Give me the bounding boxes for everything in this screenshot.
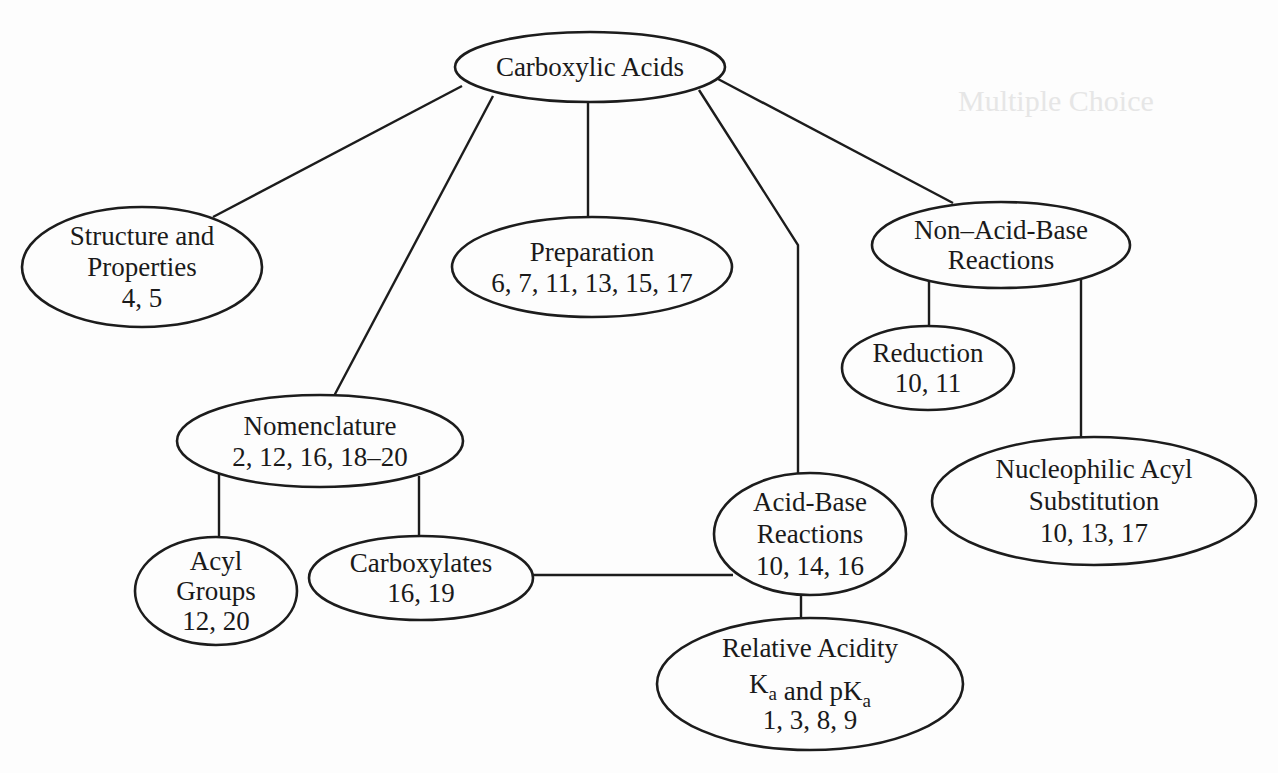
node-label-line: Relative Acidity (722, 633, 899, 663)
nodes: Carboxylic AcidsStructure andProperties4… (22, 32, 1256, 750)
node-label-line: Structure and (70, 221, 215, 251)
node-label-line: Nomenclature (244, 411, 397, 441)
node-structure-properties: Structure andProperties4, 5 (22, 207, 262, 327)
node-label-line: Non–Acid-Base (914, 215, 1088, 245)
node-acyl-groups: AcylGroups12, 20 (135, 537, 297, 645)
node-label-line: 12, 20 (182, 606, 250, 636)
node-label-line: Properties (87, 252, 196, 282)
node-label-line: Reactions (948, 245, 1054, 275)
node-label-line: 1, 3, 8, 9 (763, 705, 858, 735)
node-label-line: Preparation (530, 237, 655, 267)
node-label-line: Groups (176, 576, 256, 606)
node-label-line: 16, 19 (387, 578, 455, 608)
node-label-line: 6, 7, 11, 13, 15, 17 (491, 268, 693, 298)
node-non-acid-base-reactions: Non–Acid-BaseReactions (872, 202, 1130, 288)
node-label-line: Nucleophilic Acyl (995, 454, 1192, 484)
node-label-line: Acid-Base (753, 487, 867, 517)
node-label-line: Carboxylates (350, 548, 492, 578)
node-label-line: 2, 12, 16, 18–20 (232, 442, 408, 472)
node-nomenclature: Nomenclature2, 12, 16, 18–20 (177, 395, 463, 487)
node-label-line: 10, 13, 17 (1040, 518, 1148, 548)
node-nucleophilic-acyl-substitution: Nucleophilic AcylSubstitution10, 13, 17 (932, 437, 1256, 565)
node-reduction: Reduction10, 11 (842, 326, 1014, 410)
node-label-line: Substitution (1029, 486, 1160, 516)
node-carboxylic-acids: Carboxylic Acids (455, 32, 725, 102)
edge-carboxylic-acids-to-non-acid-base-reactions (718, 79, 953, 203)
node-carboxylates: Carboxylates16, 19 (309, 536, 533, 620)
concept-map: Carboxylic AcidsStructure andProperties4… (0, 0, 1278, 773)
node-label-line: 10, 11 (895, 368, 962, 398)
node-label-line: 4, 5 (122, 283, 163, 313)
node-acid-base-reactions: Acid-BaseReactions10, 14, 16 (714, 473, 906, 595)
node-label-line: Acyl (190, 546, 242, 576)
edge-carboxylic-acids-to-structure-properties (213, 86, 462, 217)
node-relative-acidity: Relative AcidityKa and pKa1, 3, 8, 9 (657, 618, 963, 750)
node-label-line: Reactions (757, 519, 863, 549)
node-label-line: Reduction (873, 338, 984, 368)
node-preparation: Preparation6, 7, 11, 13, 15, 17 (452, 217, 732, 317)
node-label-line: 10, 14, 16 (756, 551, 864, 581)
node-label-line: Carboxylic Acids (496, 52, 684, 82)
